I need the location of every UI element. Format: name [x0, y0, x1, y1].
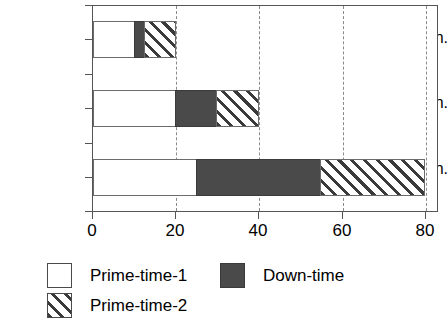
y-axis-tick-mark — [85, 143, 92, 144]
legend-item-prime-time-1: Prime-time-1 — [47, 263, 187, 288]
gridline-80 — [426, 6, 427, 211]
bar-segment-prime-time-2 — [144, 21, 176, 58]
plot-area — [92, 5, 438, 212]
legend-label-prime-time-2: Prime-time-2 — [90, 296, 187, 316]
bar-segment-prime-time-2 — [320, 159, 425, 196]
bar-segment-prime-time-1 — [93, 159, 197, 196]
legend-item-down-time: Down-time — [220, 263, 344, 288]
legend-label-prime-time-1: Prime-time-1 — [90, 266, 187, 286]
legend-label-down-time: Down-time — [263, 266, 344, 286]
y-axis-tick-mark — [85, 177, 92, 178]
y-axis-tick-mark — [85, 74, 92, 75]
bar-row-40min — [93, 90, 259, 127]
y-axis-tick-mark — [85, 5, 92, 6]
x-axis-tick-mark — [258, 212, 259, 219]
legend-swatch-prime-time-2 — [47, 293, 72, 318]
x-axis-tick-mark — [342, 212, 343, 219]
bar-segment-down-time — [196, 159, 321, 196]
x-axis-tick-mark — [425, 212, 426, 219]
bar-segment-prime-time-1 — [93, 21, 135, 58]
x-axis-tick-label-60: 60 — [322, 221, 362, 241]
y-axis-tick-mark — [85, 108, 92, 109]
x-axis-tick-label-40: 40 — [238, 221, 278, 241]
bar-segment-prime-time-1 — [93, 90, 176, 127]
y-axis-tick-mark — [85, 39, 92, 40]
x-axis-tick-label-20: 20 — [155, 221, 195, 241]
legend-swatch-prime-time-1 — [47, 263, 72, 288]
bar-segment-down-time — [175, 90, 217, 127]
bar-row-20min — [93, 21, 176, 58]
x-axis-tick-mark — [175, 212, 176, 219]
y-axis-tick-mark — [85, 211, 92, 212]
x-axis-tick-mark — [92, 212, 93, 219]
bar-row-80min — [93, 159, 426, 196]
x-axis-tick-label-80: 80 — [405, 221, 445, 241]
bar-segment-prime-time-2 — [216, 90, 259, 127]
legend-item-prime-time-2: Prime-time-2 — [47, 293, 187, 318]
legend-swatch-down-time — [220, 263, 245, 288]
chart-figure: Lesson Length 20 min. 40 min. 80 min. — [0, 0, 448, 318]
x-axis-tick-label-0: 0 — [72, 221, 112, 241]
chart-legend: Prime-time-1 Prime-time-2 Down-time — [0, 258, 448, 318]
